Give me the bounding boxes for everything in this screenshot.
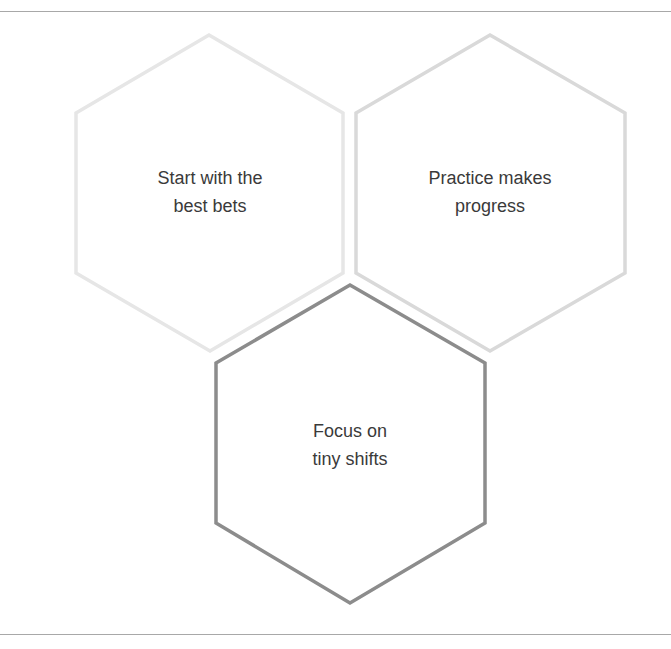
label-line: Focus on: [250, 417, 450, 445]
label-line: tiny shifts: [250, 445, 450, 473]
hexagon-label-start-best-bets: Start with the best bets: [110, 164, 310, 220]
hexagon-diagram: [0, 0, 671, 649]
label-line: best bets: [110, 192, 310, 220]
label-line: Practice makes: [390, 164, 590, 192]
label-line: Start with the: [110, 164, 310, 192]
hexagon-label-practice-progress: Practice makes progress: [390, 164, 590, 220]
hexagon-label-focus-tiny-shifts: Focus on tiny shifts: [250, 417, 450, 473]
label-line: progress: [390, 192, 590, 220]
